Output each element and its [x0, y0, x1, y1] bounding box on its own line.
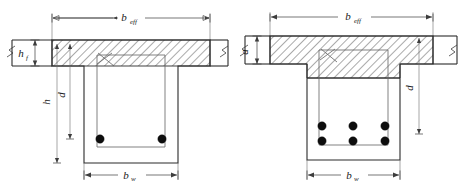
rebar-dot: [381, 122, 389, 130]
right-d-label: d: [403, 85, 415, 91]
left-rebar-group: [96, 135, 166, 143]
right-beam-diagram: b eff a: [233, 0, 465, 190]
right-beff-dimension: b eff: [270, 10, 433, 36]
left-hf-dimension: h f: [18, 40, 39, 66]
left-beff-dimension: b eff: [52, 11, 210, 40]
left-beam-diagram: b eff: [0, 0, 233, 190]
left-hf-subscript: f: [26, 54, 29, 62]
figure-root: b eff: [0, 0, 465, 190]
rebar-dot: [96, 135, 104, 143]
right-bw-label: b: [346, 169, 352, 181]
left-hf-label: h: [18, 47, 24, 59]
right-bw-dimension: b w: [307, 160, 400, 183]
left-break-symbol-west: [7, 46, 15, 57]
right-rebar-group: [318, 122, 389, 145]
left-bw-dimension: b w: [84, 163, 178, 183]
left-beff-subscript: eff: [130, 18, 138, 26]
left-bw-subscript: w: [131, 175, 136, 183]
rebar-dot: [349, 122, 357, 130]
right-beff-subscript: eff: [354, 17, 362, 25]
left-bw-label: b: [123, 169, 129, 181]
left-break-symbol-east: [220, 46, 228, 57]
right-a-dimension: a: [238, 36, 262, 64]
left-stirrup: [97, 55, 165, 147]
right-bw-subscript: w: [354, 175, 359, 183]
left-beff-label: b: [121, 11, 127, 23]
rebar-dot: [381, 137, 389, 145]
rebar-dot: [158, 135, 166, 143]
rebar-dot: [349, 137, 357, 145]
right-beff-label: b: [345, 10, 351, 22]
left-h-label: h: [40, 99, 52, 105]
left-d-label: d: [55, 92, 67, 98]
right-a-label: a: [238, 49, 250, 55]
rebar-dot: [318, 122, 326, 130]
right-compression-hatch: [270, 36, 433, 78]
right-break-symbol-east: [449, 45, 457, 56]
left-flange-hatch: [52, 40, 210, 66]
rebar-dot: [318, 137, 326, 145]
